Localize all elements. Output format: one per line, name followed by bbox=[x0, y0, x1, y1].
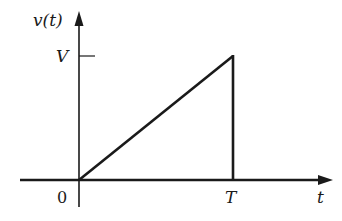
waveform-diagram: v(t) V 0 T t bbox=[0, 0, 342, 221]
v-level-label: V bbox=[56, 46, 70, 66]
y-axis-arrow-icon bbox=[75, 11, 84, 26]
t-end-label: T bbox=[225, 187, 238, 207]
x-axis-arrow-icon bbox=[318, 175, 333, 185]
ramp-segment bbox=[79, 56, 233, 180]
x-axis-label: t bbox=[317, 187, 324, 207]
y-axis-label: v(t) bbox=[33, 10, 63, 30]
origin-label: 0 bbox=[57, 188, 67, 207]
